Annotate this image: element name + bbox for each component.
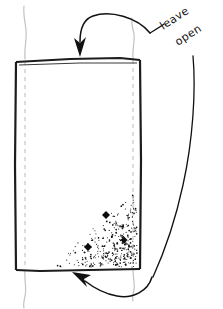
stipple-dot <box>120 235 122 237</box>
stipple-dot <box>97 253 98 254</box>
stipple-dot <box>87 261 88 262</box>
stipple-dot <box>127 254 129 256</box>
sketch-canvas: leave open <box>0 0 223 309</box>
stipple-dot <box>116 256 117 257</box>
stipple-dot <box>127 217 129 219</box>
stipple-dot <box>135 210 136 211</box>
stipple-dot <box>111 232 112 233</box>
stipple-dot <box>120 259 121 260</box>
annotation-line-2: open <box>173 22 204 49</box>
stipple-dot <box>69 263 70 264</box>
stipple-dot <box>98 240 99 241</box>
stipple-dot <box>117 249 118 250</box>
panel-bottom-edge <box>16 269 140 271</box>
stipple-dot <box>115 224 116 225</box>
stipple-dot <box>109 241 110 242</box>
stipple-dot <box>126 232 127 233</box>
stipple-dot <box>120 255 121 256</box>
leave-open-annotation: leave open <box>158 4 204 48</box>
stipple-dot <box>106 221 108 223</box>
stipple-dot <box>78 265 79 266</box>
fold-guide-lines <box>25 60 133 269</box>
stipple-dot <box>105 256 107 258</box>
stipple-dot <box>131 228 132 229</box>
stipple-dot <box>77 242 78 243</box>
stipple-dot <box>134 236 135 237</box>
stipple-dot <box>82 257 83 258</box>
stipple-dot <box>133 200 134 201</box>
stipple-dot <box>130 238 132 240</box>
stipple-dot <box>66 260 67 261</box>
stipple-dot <box>78 262 79 263</box>
stipple-dot <box>91 264 92 265</box>
stipple-dot <box>70 253 71 254</box>
stipple-dot <box>103 258 104 259</box>
stipple-dot <box>107 237 108 238</box>
stipple-dot <box>114 223 115 224</box>
stipple-dot <box>136 263 137 264</box>
stipple-dot <box>97 245 98 246</box>
stipple-dot <box>112 224 114 226</box>
stipple-dot <box>103 253 104 254</box>
stipple-dot <box>128 250 129 251</box>
stipple-dot <box>115 248 117 250</box>
stipple-dot <box>112 236 113 237</box>
stipple-dot <box>130 262 131 263</box>
stipple-dot <box>95 257 96 258</box>
stipple-dot <box>98 237 100 239</box>
stipple-dot <box>117 214 118 215</box>
stipple-dot <box>85 257 87 259</box>
stipple-dot <box>97 251 98 252</box>
bottom-arrow-shaft <box>85 277 152 297</box>
stipple-dot <box>115 235 116 236</box>
stipple-dot <box>128 225 129 226</box>
stipple-dot <box>112 234 114 236</box>
stipple-dot <box>125 242 127 244</box>
stipple-dot <box>132 241 133 242</box>
stipple-dot <box>60 266 61 267</box>
stipple-dot <box>113 262 114 263</box>
stipple-dot <box>81 263 82 264</box>
stipple-dot <box>128 262 129 263</box>
stipple-shading <box>57 194 138 267</box>
stipple-dot <box>84 252 86 254</box>
stipple-dot <box>130 251 132 253</box>
stipple-dot <box>97 247 98 248</box>
stipple-dot <box>89 234 90 235</box>
stipple-dot <box>132 221 133 222</box>
stipple-dot <box>103 225 104 226</box>
stipple-dot <box>103 238 104 239</box>
stipple-dot <box>127 248 129 250</box>
stipple-dot <box>86 264 87 265</box>
stipple-dot <box>132 194 134 196</box>
stipple-dot <box>94 230 95 231</box>
top-arrow-shaft <box>80 14 150 42</box>
stipple-dot <box>126 259 127 260</box>
stipple-dot <box>118 236 119 237</box>
stipple-dot <box>98 256 99 257</box>
stipple-dot <box>131 205 132 206</box>
stipple-dot <box>127 236 128 237</box>
stipple-dot <box>92 239 94 241</box>
stipple-dot <box>133 212 135 214</box>
stipple-dot <box>111 213 112 214</box>
stipple-dot <box>125 202 126 203</box>
stipple-dot <box>96 244 97 245</box>
stipple-dot <box>129 230 130 231</box>
stipple-dot <box>114 250 115 251</box>
stipple-dot <box>94 264 95 265</box>
leader-line <box>153 56 194 277</box>
stipple-dot <box>135 256 136 257</box>
stipple-dot <box>126 249 127 250</box>
stipple-dot <box>112 253 113 254</box>
stipple-dot <box>108 262 109 263</box>
stipple-dot <box>100 265 101 266</box>
stipple-dot <box>95 233 96 234</box>
stipple-dot <box>122 204 124 206</box>
stipple-dot <box>116 254 117 255</box>
stipple-dot <box>136 212 137 213</box>
stipple-dot <box>108 251 110 253</box>
stipple-dot <box>114 248 115 249</box>
stipple-dot <box>90 254 92 256</box>
stipple-dot <box>93 263 94 264</box>
